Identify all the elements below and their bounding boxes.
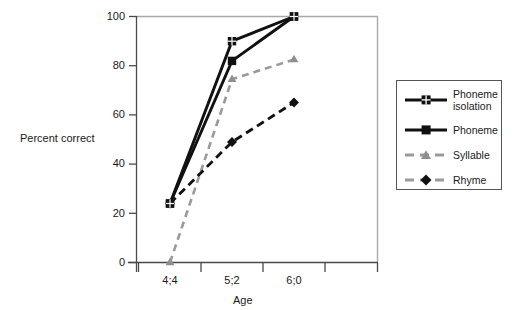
legend-key-syllable xyxy=(403,142,449,168)
chart-figure: 100 80 60 40 20 0 4;4 5;2 6;0 Percent co… xyxy=(0,0,523,310)
y-tick-label-100: 100 xyxy=(105,10,125,22)
x-tick-label-5-2: 5;2 xyxy=(217,274,247,286)
y-axis-ticks xyxy=(129,17,136,263)
y-tick-label-80: 80 xyxy=(105,59,125,71)
legend-entry-phoneme-isolation: Phoneme isolation xyxy=(397,87,503,113)
legend-key-rhyme xyxy=(403,167,449,193)
series-markers-phoneme-isolation xyxy=(166,12,298,207)
y-tick-label-40: 40 xyxy=(105,157,125,169)
legend-entry-phoneme: Phoneme xyxy=(397,117,503,143)
chart-legend: Phoneme isolation Phoneme Syllable Rhyme xyxy=(396,80,502,190)
legend-label-phoneme-isolation: Phoneme isolation xyxy=(453,88,498,112)
x-tick-label-4-4: 4;4 xyxy=(155,274,185,286)
legend-key-phoneme xyxy=(403,117,449,143)
legend-label-syllable: Syllable xyxy=(453,149,490,161)
legend-key-phoneme-isolation xyxy=(403,87,449,113)
y-tick-label-60: 60 xyxy=(105,108,125,120)
x-axis-ticks xyxy=(139,263,378,273)
legend-label-phoneme: Phoneme xyxy=(453,124,498,136)
y-axis-title: Percent correct xyxy=(20,132,95,144)
x-axis-title: Age xyxy=(233,294,253,306)
legend-label-rhyme: Rhyme xyxy=(453,174,486,186)
x-tick-label-6-0: 6;0 xyxy=(279,274,309,286)
legend-entry-rhyme: Rhyme xyxy=(397,167,503,193)
series-markers-rhyme xyxy=(165,98,299,209)
y-tick-label-0: 0 xyxy=(105,256,125,268)
legend-entry-syllable: Syllable xyxy=(397,142,503,168)
y-tick-label-20: 20 xyxy=(105,207,125,219)
